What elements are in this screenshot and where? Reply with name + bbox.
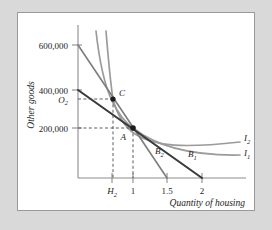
- y-axis-title: Other goods: [26, 81, 36, 129]
- y-tick-label-O2: O2: [58, 95, 69, 107]
- curve-label-B1: B1: [188, 149, 197, 161]
- curve-label-I2: I2: [243, 133, 251, 145]
- point-C-marker: [110, 96, 115, 101]
- y-tick-label-600000: 600,000: [39, 41, 69, 51]
- x-tick-label-2: 2: [200, 186, 205, 196]
- point-A-label: A: [120, 132, 127, 142]
- x-tick-label-H2: H2: [106, 186, 118, 198]
- x-axis-title: Quantity of housing: [170, 198, 246, 208]
- curve-label-I1: I1: [243, 148, 250, 160]
- budget-line-B1: [78, 90, 202, 178]
- point-C-label: C: [119, 88, 126, 98]
- plot-area: 600,000 400,000 200,000 O2 H2 1 1.5 2 Qu…: [0, 0, 272, 230]
- curve-I1: [96, 31, 240, 155]
- curve-label-B2: B2: [155, 146, 165, 158]
- x-tick-label-1: 1: [131, 186, 136, 196]
- y-tick-label-200000: 200,000: [39, 124, 69, 134]
- x-tick-label-1-5: 1.5: [161, 186, 173, 196]
- budget-line-B2: [78, 45, 167, 178]
- point-A-marker: [130, 125, 136, 131]
- curve-I2: [106, 31, 240, 146]
- figure-root: 600,000 400,000 200,000 O2 H2 1 1.5 2 Qu…: [0, 0, 272, 230]
